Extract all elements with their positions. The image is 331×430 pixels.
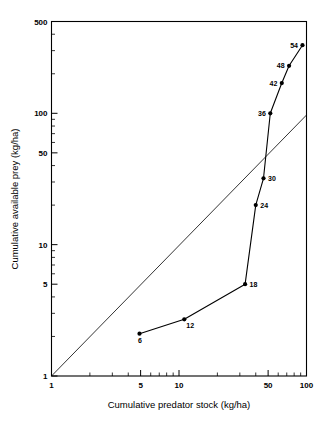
data-point-marker <box>137 332 141 336</box>
data-point-marker <box>287 64 291 68</box>
log-log-scatter-line-chart: 151050100500 151050100 61218243036424854… <box>0 0 331 430</box>
y-tick-label: 1 <box>43 372 48 381</box>
data-point-marker <box>300 43 304 47</box>
data-point-label: 6 <box>138 337 142 344</box>
data-point-label: 12 <box>186 322 194 329</box>
data-point-marker <box>254 203 258 207</box>
data-point-marker <box>268 111 272 115</box>
data-point-label: 42 <box>269 80 277 87</box>
x-tick-label: 1 <box>49 381 54 390</box>
x-axis-title: Cumulative predator stock (kg/ha) <box>108 399 251 410</box>
data-point-label: 54 <box>290 42 298 49</box>
data-point-marker <box>261 176 265 180</box>
data-point-label: 24 <box>260 202 268 209</box>
data-point-label: 30 <box>268 175 276 182</box>
data-point-marker <box>280 81 284 85</box>
data-point-label: 36 <box>258 110 266 117</box>
y-axis-title: Cumulative available prey (kg/ha) <box>9 129 20 270</box>
data-point-marker <box>243 282 247 286</box>
x-tick-label: 10 <box>175 381 184 390</box>
y-tick-label: 50 <box>39 149 48 158</box>
y-tick-label: 5 <box>43 280 48 289</box>
x-tick-label: 100 <box>300 381 314 390</box>
y-tick-label: 100 <box>34 109 48 118</box>
y-tick-label: 10 <box>39 241 48 250</box>
chart-figure: 151050100500 151050100 61218243036424854… <box>0 0 331 430</box>
data-point-label: 48 <box>277 62 285 69</box>
data-point-marker <box>182 317 186 321</box>
x-tick-label: 5 <box>138 381 143 390</box>
y-tick-label: 500 <box>34 18 48 27</box>
x-tick-label: 50 <box>264 381 273 390</box>
data-point-label: 18 <box>250 281 258 288</box>
